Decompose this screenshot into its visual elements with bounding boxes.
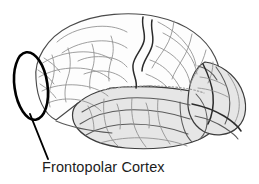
frontopolar-cortex-label: Frontopolar Cortex bbox=[42, 159, 165, 176]
leader-line bbox=[30, 114, 48, 159]
figure-root: Frontopolar Cortex bbox=[0, 0, 259, 184]
annotation-leader bbox=[30, 114, 48, 159]
brain-lateral-diagram bbox=[0, 0, 259, 184]
